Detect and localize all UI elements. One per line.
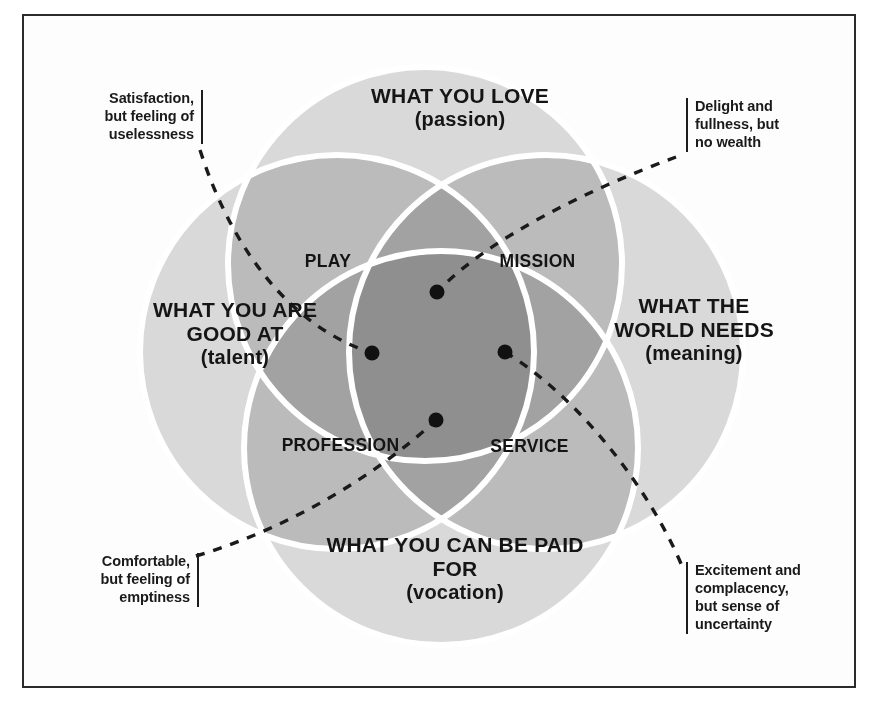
dot-top bbox=[430, 285, 445, 300]
circle-label-paid-main: WHAT YOU CAN BE PAID FOR bbox=[320, 533, 590, 581]
intersection-label-mission: MISSION bbox=[470, 251, 605, 272]
circle-label-love-main: WHAT YOU LOVE bbox=[345, 84, 575, 108]
circle-label-paid: WHAT YOU CAN BE PAID FOR (vocation) bbox=[320, 533, 590, 604]
circle-label-talent-sub: (talent) bbox=[140, 346, 330, 370]
dot-left bbox=[365, 346, 380, 361]
circle-label-paid-sub: (vocation) bbox=[320, 581, 590, 605]
callout-top-right: Delight and fullness, but no wealth bbox=[686, 98, 827, 152]
diagram-page: Satisfaction, but feeling of uselessness… bbox=[0, 0, 879, 704]
intersection-label-play: PLAY bbox=[268, 251, 388, 272]
dot-bottom bbox=[429, 413, 444, 428]
circle-label-talent: WHAT YOU ARE GOOD AT (talent) bbox=[140, 298, 330, 369]
circle-label-love: WHAT YOU LOVE (passion) bbox=[345, 84, 575, 132]
callout-top-left: Satisfaction, but feeling of uselessness bbox=[66, 90, 203, 144]
intersection-label-service: SERVICE bbox=[462, 436, 597, 457]
circle-label-love-sub: (passion) bbox=[345, 108, 575, 132]
circle-label-world-sub: (meaning) bbox=[598, 342, 790, 366]
circle-label-world: WHAT THE WORLD NEEDS (meaning) bbox=[598, 294, 790, 365]
callout-bottom-right: Excitement and complacency, but sense of… bbox=[686, 562, 835, 634]
callout-bottom-left: Comfortable, but feeling of emptiness bbox=[54, 553, 199, 607]
circle-label-talent-main: WHAT YOU ARE GOOD AT bbox=[140, 298, 330, 346]
circle-label-world-main: WHAT THE WORLD NEEDS bbox=[598, 294, 790, 342]
intersection-label-profession: PROFESSION bbox=[253, 435, 428, 456]
dot-right bbox=[498, 345, 513, 360]
